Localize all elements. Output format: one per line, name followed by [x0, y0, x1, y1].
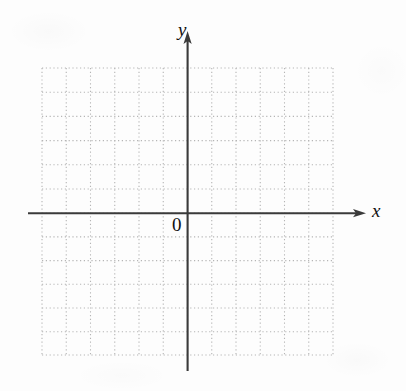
figure-canvas: y x 0	[0, 0, 406, 391]
origin-label: 0	[172, 215, 182, 234]
y-axis-label: y	[178, 20, 186, 39]
coordinate-grid-figure	[0, 0, 406, 391]
x-axis-label: x	[372, 201, 380, 220]
axes	[28, 31, 366, 371]
